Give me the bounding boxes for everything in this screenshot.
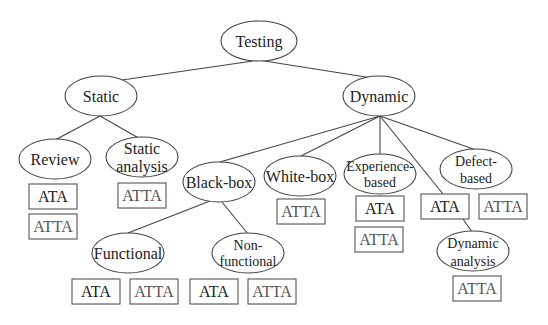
edge-ata-dynamicanalysis [463, 219, 472, 232]
svg-text:ATTA: ATTA [122, 187, 162, 204]
edge-blackbox-nonfunctional [222, 202, 248, 234]
edge-static-review [55, 116, 100, 140]
box-non-functional-atta: ATTA [248, 279, 296, 304]
svg-text:ATTA: ATTA [457, 280, 497, 297]
svg-text:Functional: Functional [94, 245, 163, 262]
box-dynamic-analysis-atta: ATTA [453, 276, 501, 301]
node-dynamic-analysis: Dynamic analysis [437, 231, 509, 271]
box-functional-ata: ATA [72, 279, 120, 304]
node-black-box: Black-box [183, 162, 255, 202]
svg-text:ATA: ATA [365, 200, 395, 217]
node-experience-based: Experience- based [344, 154, 416, 194]
box-static-analysis-atta: ATTA [118, 183, 166, 208]
svg-text:Non-: Non- [234, 238, 263, 253]
svg-text:Dynamic: Dynamic [350, 88, 409, 106]
svg-text:ATTA: ATTA [359, 231, 399, 248]
box-review-atta: ATTA [29, 214, 77, 239]
svg-text:White-box: White-box [266, 168, 334, 185]
svg-text:Defect-: Defect- [455, 154, 497, 169]
svg-text:ATTA: ATTA [281, 203, 321, 220]
node-review: Review [19, 139, 91, 179]
box-review-ata: ATA [29, 184, 77, 209]
edge-static-staticanalysis [100, 116, 142, 140]
svg-text:Testing: Testing [236, 33, 283, 51]
node-dynamic: Dynamic [343, 76, 415, 116]
node-defect-based: Defect- based [440, 149, 512, 189]
svg-text:ATTA: ATTA [134, 283, 174, 300]
node-static: Static [65, 76, 137, 116]
svg-text:based: based [460, 171, 492, 186]
svg-text:based: based [364, 175, 396, 190]
svg-text:ATA: ATA [38, 188, 68, 205]
edge-dynamic-whitebox [301, 116, 380, 156]
svg-text:Experience-: Experience- [346, 159, 414, 174]
svg-text:Static: Static [83, 88, 119, 105]
svg-text:ATTA: ATTA [483, 198, 523, 215]
node-testing: Testing [221, 21, 297, 61]
node-functional: Functional [92, 233, 164, 273]
box-experience-ata: ATA [356, 196, 404, 221]
testing-taxonomy-diagram: Testing Static Dynamic Review Static ana… [0, 0, 548, 325]
box-dynamic-ata: ATA [421, 194, 469, 219]
svg-text:ATA: ATA [199, 283, 229, 300]
node-static-analysis: Static analysis [106, 137, 178, 177]
box-experience-atta: ATTA [355, 227, 403, 252]
box-white-box-atta: ATTA [277, 199, 325, 224]
svg-text:functional: functional [220, 254, 277, 269]
svg-text:ATTA: ATTA [252, 283, 292, 300]
svg-text:analysis: analysis [450, 254, 495, 269]
node-non-functional: Non- functional [212, 233, 284, 273]
edge-dynamic-blackbox [220, 116, 380, 162]
edge-testing-static [122, 61, 253, 80]
svg-text:analysis: analysis [116, 158, 168, 176]
svg-text:ATA: ATA [430, 198, 460, 215]
edge-testing-dynamic [258, 60, 372, 78]
box-defect-atta: ATTA [479, 194, 527, 219]
svg-text:Dynamic: Dynamic [447, 236, 498, 251]
svg-text:Static: Static [124, 140, 160, 157]
box-non-functional-ata: ATA [190, 279, 238, 304]
svg-text:ATA: ATA [81, 283, 111, 300]
svg-text:Review: Review [31, 151, 80, 168]
box-functional-atta: ATTA [130, 279, 178, 304]
node-white-box: White-box [264, 156, 336, 196]
svg-text:Black-box: Black-box [186, 174, 253, 191]
svg-text:ATTA: ATTA [33, 218, 73, 235]
